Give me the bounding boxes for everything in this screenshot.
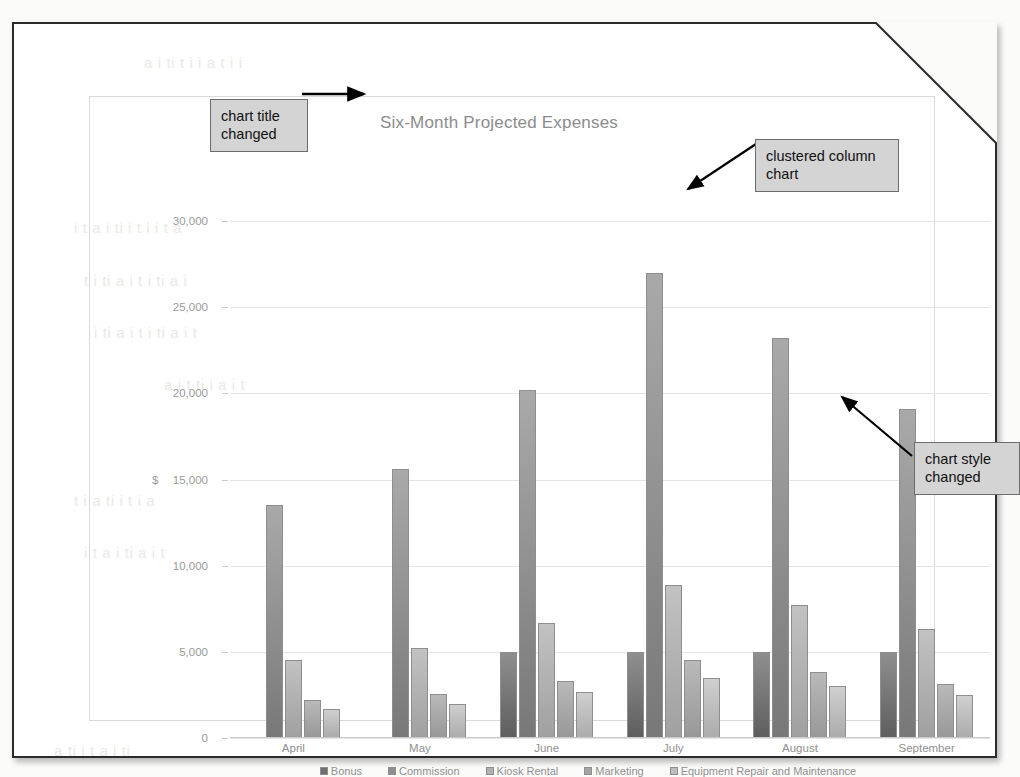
x-axis-tick-label: July — [610, 742, 736, 762]
bar-equipment-repair-and-maintenance[interactable] — [449, 704, 466, 738]
legend-swatch-icon — [486, 767, 494, 775]
y-axis-tick-label: 15,000 — [90, 474, 208, 486]
callout-chart-title-changed[interactable]: chart title changed — [210, 99, 308, 152]
bar-groups[interactable] — [230, 221, 990, 738]
bar-equipment-repair-and-maintenance[interactable] — [829, 686, 846, 738]
y-axis-tick-mark — [222, 480, 228, 481]
bar-commission[interactable] — [392, 469, 409, 738]
bar-kiosk-rental[interactable] — [538, 623, 555, 738]
bar-marketing[interactable] — [557, 681, 574, 738]
bar-commission[interactable] — [266, 505, 283, 738]
y-axis-tick-label: 5,000 — [90, 646, 208, 658]
bar-kiosk-rental[interactable] — [411, 648, 428, 738]
bar-marketing[interactable] — [304, 700, 321, 738]
y-axis-tick-label: 0 — [90, 732, 208, 744]
legend-swatch-icon — [670, 767, 678, 775]
x-axis-tick-label: September — [864, 742, 990, 762]
legend-swatch-icon — [320, 767, 328, 775]
bar-marketing[interactable] — [430, 694, 447, 738]
legend-item[interactable]: Bonus — [320, 765, 362, 777]
legend-swatch-icon — [584, 767, 592, 775]
axis-baseline — [230, 737, 990, 738]
callout-chart-style-changed[interactable]: chart style changed — [914, 442, 1020, 495]
chart-title[interactable]: Six-Month Projected Expenses — [380, 113, 618, 133]
y-axis-tick-mark — [222, 566, 228, 567]
bar-bonus[interactable] — [753, 652, 770, 738]
bar-marketing[interactable] — [810, 672, 827, 738]
y-axis-tick-label: 30,000 — [90, 215, 208, 227]
bar-commission[interactable] — [646, 273, 663, 738]
legend-label: Equipment Repair and Maintenance — [681, 765, 857, 777]
y-axis-tick-label: 20,000 — [90, 387, 208, 399]
x-axis-tick-label: April — [230, 742, 356, 762]
x-axis-tick-label: May — [357, 742, 483, 762]
bar-equipment-repair-and-maintenance[interactable] — [703, 678, 720, 738]
bar-commission[interactable] — [772, 338, 789, 738]
x-axis-tick-label: August — [737, 742, 863, 762]
y-axis-tick-mark — [222, 221, 228, 222]
x-axis-labels: AprilMayJuneJulyAugustSeptember — [230, 742, 990, 762]
bar-bonus[interactable] — [627, 652, 644, 738]
legend-item[interactable]: Kiosk Rental — [486, 765, 559, 777]
legend-label: Marketing — [595, 765, 643, 777]
bar-equipment-repair-and-maintenance[interactable] — [323, 709, 340, 738]
bar-bonus[interactable] — [500, 652, 517, 738]
y-axis-tick-mark — [222, 652, 228, 653]
legend-item[interactable]: Marketing — [584, 765, 643, 777]
legend-label: Bonus — [331, 765, 362, 777]
bar-group[interactable] — [247, 221, 340, 738]
bar-commission[interactable] — [519, 390, 536, 738]
bar-kiosk-rental[interactable] — [918, 629, 935, 738]
legend-label: Kiosk Rental — [497, 765, 559, 777]
bar-equipment-repair-and-maintenance[interactable] — [576, 692, 593, 738]
bar-group[interactable] — [373, 221, 466, 738]
y-axis-tick-mark — [222, 307, 228, 308]
plot-area[interactable] — [230, 221, 990, 738]
bar-kiosk-rental[interactable] — [285, 660, 302, 738]
bar-bonus[interactable] — [880, 652, 897, 738]
bar-marketing[interactable] — [937, 684, 954, 738]
legend-label: Commission — [399, 765, 460, 777]
scanned-page: a i ti t i i a t i ii t a i ti i t i i t… — [12, 22, 997, 758]
bar-group[interactable] — [627, 221, 720, 738]
legend-swatch-icon — [388, 767, 396, 775]
chart-legend[interactable]: BonusCommissionKiosk RentalMarketingEqui… — [165, 765, 1011, 777]
gridline — [230, 738, 990, 739]
bar-equipment-repair-and-maintenance[interactable] — [956, 695, 973, 738]
y-axis-tick-mark — [222, 738, 228, 739]
y-axis-unit-label: $ — [152, 474, 158, 486]
x-axis-tick-label: June — [484, 742, 610, 762]
bar-group[interactable] — [753, 221, 846, 738]
y-axis-tick-label: 10,000 — [90, 560, 208, 572]
y-axis-tick-label: 25,000 — [90, 301, 208, 313]
bar-marketing[interactable] — [684, 660, 701, 738]
ghost-text-line: a ti i t a i ti — [54, 742, 131, 759]
callout-clustered-column-chart[interactable]: clustered column chart — [755, 139, 899, 192]
bar-group[interactable] — [500, 221, 593, 738]
y-axis-tick-mark — [222, 393, 228, 394]
legend-item[interactable]: Equipment Repair and Maintenance — [670, 765, 857, 777]
legend-item[interactable]: Commission — [388, 765, 460, 777]
bar-kiosk-rental[interactable] — [665, 585, 682, 738]
ghost-text-line: a i ti t i i a t i i — [144, 54, 243, 71]
bar-kiosk-rental[interactable] — [791, 605, 808, 738]
